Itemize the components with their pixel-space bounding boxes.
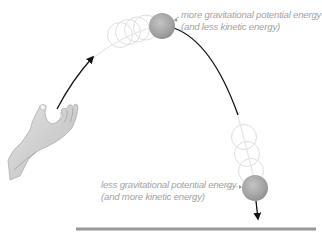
trajectory-faint bbox=[93, 27, 254, 178]
trajectory-falling bbox=[174, 28, 238, 115]
ball-near-ground bbox=[242, 175, 268, 201]
annotation-bottom-line1: less gravitational potential energy bbox=[101, 179, 236, 191]
energy-diagram: more gravitational potential energy (and… bbox=[0, 0, 322, 240]
trajectory-rising-arrow bbox=[57, 57, 93, 109]
annotation-bottom-line2: (and more kinetic energy) bbox=[101, 191, 236, 203]
annotation-top-line2: (and less kinetic energy) bbox=[181, 21, 321, 33]
leader-arrowheads bbox=[174, 18, 242, 189]
annotation-low-potential: less gravitational potential energy (and… bbox=[101, 179, 236, 203]
leader-lines bbox=[173, 17, 240, 187]
annotation-high-potential: more gravitational potential energy (and… bbox=[181, 9, 321, 33]
ball-at-peak bbox=[149, 13, 175, 39]
open-hand-icon bbox=[8, 104, 78, 180]
falling-arrow bbox=[256, 201, 258, 219]
diagram-canvas bbox=[0, 0, 322, 240]
ground-line bbox=[76, 228, 316, 231]
annotation-top-line1: more gravitational potential energy bbox=[181, 9, 321, 21]
